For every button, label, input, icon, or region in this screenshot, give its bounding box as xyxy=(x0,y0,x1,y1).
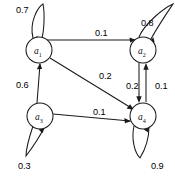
edge-a1-a4 xyxy=(50,58,134,110)
edge-label-a2-a4: 0.2 xyxy=(126,81,138,91)
node-a4[interactable]: a4 xyxy=(130,103,156,129)
node-a3[interactable]: a3 xyxy=(27,103,53,129)
edge-label-a1-a4: 0.2 xyxy=(99,71,111,81)
edge-label-a3-a4: 0.1 xyxy=(93,107,105,117)
self-loop-a3 xyxy=(26,126,45,156)
graph-diagram: a1 a2 a3 a4 0.7 0.8 0.3 0.9 0.1 0.2 0.6 … xyxy=(0,0,175,176)
edge-a4-a2 xyxy=(143,63,148,102)
arrowhead-a4-a2 xyxy=(143,63,148,70)
arrowhead-a3-a1 xyxy=(37,63,42,69)
edge-label-a2-a2: 0.8 xyxy=(141,18,153,28)
edge-a3-a4 xyxy=(53,114,131,123)
edge-label-a1-a1: 0.7 xyxy=(16,5,28,15)
node-a2[interactable]: a2 xyxy=(130,37,156,63)
edge-label-a3-a1: 0.6 xyxy=(16,80,28,90)
edge-label-a4-a2: 0.1 xyxy=(155,81,167,91)
edge-label-a3-a3: 0.3 xyxy=(18,161,30,171)
node-a1[interactable]: a1 xyxy=(26,37,52,63)
edge-a1-a2 xyxy=(47,37,136,42)
self-loop-a4 xyxy=(133,126,150,158)
edge-label-a1-a2: 0.1 xyxy=(95,28,107,38)
self-loop-a1 xyxy=(32,4,44,41)
arrowhead-a2-a4 xyxy=(136,96,141,103)
edge-label-a4-a4: 0.9 xyxy=(151,161,163,171)
edge-a3-a1 xyxy=(37,63,42,103)
